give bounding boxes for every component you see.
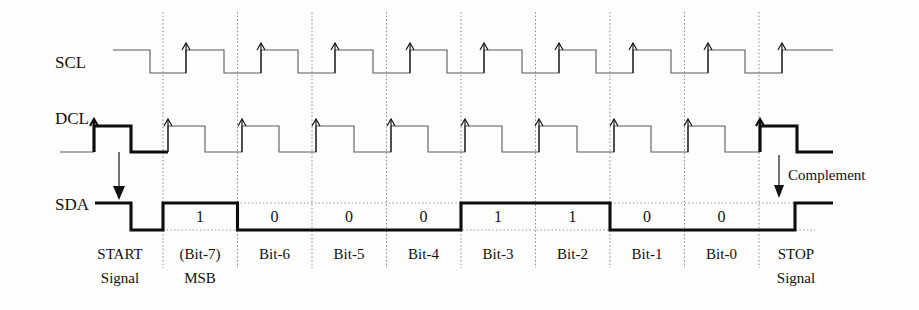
signal-label-scl: SCL [55,53,86,72]
bit-label-7: (Bit-7) [180,246,221,263]
bit-value-0: 0 [718,208,726,225]
timing-diagram-canvas: SCL DCL SDA 1 0 0 0 1 1 0 0 (Bit-7) MSB … [0,0,919,310]
start-arrow [113,152,125,200]
bit-label-3: Bit-3 [483,246,514,262]
dcl-edge-arrows [90,119,764,152]
bit-label-2: Bit-2 [557,246,588,262]
stop-signal-label-line1: STOP [778,246,814,262]
start-signal-label-line1: START [97,246,142,262]
bit-value-6: 0 [271,208,279,225]
bit-value-5: 0 [345,208,353,225]
signal-label-sda: SDA [55,195,90,214]
signal-label-dcl: DCL [55,109,89,128]
waveform-svg: SCL DCL SDA 1 0 0 0 1 1 0 0 (Bit-7) MSB … [0,0,919,310]
bit-label-0: Bit-0 [706,246,737,262]
bit-value-4: 0 [420,208,428,225]
bit-value-2: 1 [569,208,577,225]
complement-label: Complement [788,167,866,183]
scl-edge-arrows [182,43,786,73]
bit-label-7-msb: MSB [184,270,216,286]
bit-label-1: Bit-1 [632,246,663,262]
bit-label-6: Bit-6 [259,246,290,262]
bit-label-4: Bit-4 [408,246,439,262]
bit-label-5: Bit-5 [334,246,365,262]
dcl-waveform-train [168,126,760,152]
bit-value-3: 1 [494,208,502,225]
dcl-start-pulse [94,126,168,152]
start-signal-label-line2: Signal [101,270,139,286]
dcl-stop-pulse [760,126,833,152]
stop-signal-label-line2: Signal [777,270,815,286]
bit-value-7: 1 [196,208,204,225]
complement-arrow [774,155,784,198]
bit-value-1: 0 [643,208,651,225]
scl-waveform [113,50,833,73]
